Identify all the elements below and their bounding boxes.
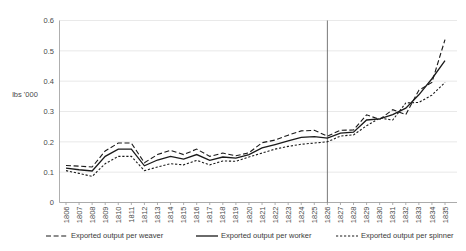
legend-item[interactable]: Exported output per spinner <box>336 231 454 240</box>
x-tick-label: 1825 <box>310 207 319 224</box>
x-tick-label: 1812 <box>140 207 149 224</box>
y-tick-label: 0.4 <box>44 77 54 86</box>
x-tick-label: 1817 <box>205 207 214 224</box>
y-tick-label: 0.1 <box>44 168 54 177</box>
x-tick-label: 1824 <box>297 207 306 224</box>
x-tick-label: 1806 <box>62 207 71 224</box>
x-axis-tick-labels: 1806180718081809181018111812181318141815… <box>62 203 450 224</box>
legend-item-label: Exported output per weaver <box>71 231 164 240</box>
legend-item[interactable]: Exported output per worker <box>196 231 312 240</box>
x-tick-label: 1807 <box>75 207 84 224</box>
y-tick-label: 0 <box>50 198 54 207</box>
x-tick-label: 1815 <box>179 207 188 224</box>
line-chart: 00.10.20.30.40.50.6 lbs '000 18061807180… <box>0 0 466 251</box>
x-tick-label: 1832 <box>401 207 410 224</box>
x-tick-label: 1820 <box>245 207 254 224</box>
y-axis-tick-labels: 00.10.20.30.40.50.6 <box>44 16 54 207</box>
x-tick-label: 1810 <box>114 207 123 224</box>
legend-item[interactable]: Exported output per weaver <box>46 231 164 240</box>
y-tick-label: 0.5 <box>44 47 54 56</box>
x-tick-label: 1809 <box>101 207 110 224</box>
x-tick-label: 1823 <box>284 207 293 224</box>
x-tick-label: 1828 <box>349 207 358 224</box>
grid-lines <box>60 21 458 203</box>
series-lines <box>66 40 445 177</box>
x-tick-label: 1818 <box>218 207 227 224</box>
x-tick-label: 1816 <box>192 207 201 224</box>
chart-legend: Exported output per weaverExported outpu… <box>46 231 454 240</box>
x-tick-label: 1819 <box>231 207 240 224</box>
x-tick-label: 1829 <box>362 207 371 224</box>
x-tick-label: 1835 <box>441 207 450 224</box>
legend-item-label: Exported output per spinner <box>361 231 454 240</box>
x-tick-label: 1813 <box>153 207 162 224</box>
series-line <box>66 40 445 167</box>
x-tick-label: 1822 <box>271 207 280 224</box>
x-tick-label: 1827 <box>336 207 345 224</box>
x-tick-label: 1826 <box>323 207 332 224</box>
chart-page: 00.10.20.30.40.50.6 lbs '000 18061807180… <box>0 0 466 251</box>
y-tick-label: 0.6 <box>44 16 54 25</box>
x-tick-label: 1808 <box>88 207 97 224</box>
series-line <box>66 61 445 171</box>
y-tick-label: 0.2 <box>44 138 54 147</box>
x-tick-label: 1833 <box>414 207 423 224</box>
x-tick-label: 1831 <box>388 207 397 224</box>
series-line <box>66 82 445 176</box>
y-tick-label: 0.3 <box>44 107 54 116</box>
x-tick-label: 1834 <box>428 207 437 224</box>
legend-item-label: Exported output per worker <box>221 231 312 240</box>
x-tick-label: 1811 <box>127 207 136 223</box>
y-axis-title: lbs '000 <box>12 90 38 99</box>
x-tick-label: 1830 <box>375 207 384 224</box>
x-tick-label: 1821 <box>258 207 267 224</box>
x-tick-label: 1814 <box>166 207 175 224</box>
